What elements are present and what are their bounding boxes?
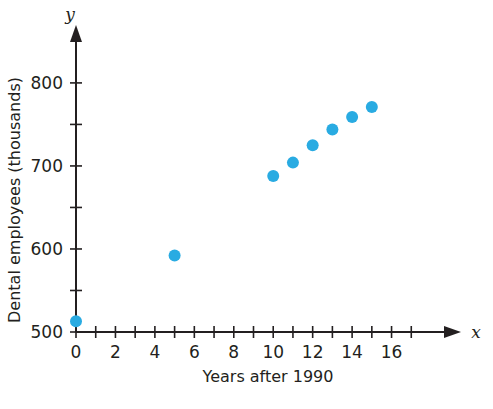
x-axis-tick-labels: 0246810121416 — [71, 342, 403, 362]
data-point — [267, 170, 279, 182]
x-tick-label: 12 — [302, 342, 324, 362]
data-point — [169, 250, 181, 262]
data-point-series — [70, 101, 378, 327]
x-tick-label: 10 — [262, 342, 284, 362]
x-tick-label: 16 — [381, 342, 403, 362]
y-tick-label: 600 — [31, 239, 63, 259]
x-tick-label: 4 — [149, 342, 160, 362]
scatter-chart: 500600700800 0246810121416 y x Years aft… — [0, 0, 493, 409]
y-axis-variable-label: y — [64, 4, 75, 24]
x-axis — [76, 326, 461, 338]
data-point — [326, 123, 338, 135]
y-axis-arrowhead — [70, 25, 82, 42]
data-point — [307, 139, 319, 151]
y-axis-title: Dental employees (thousands) — [5, 77, 24, 323]
y-tick-label: 800 — [31, 73, 63, 93]
x-tick-label: 6 — [189, 342, 200, 362]
y-tick-label: 700 — [31, 156, 63, 176]
x-tick-label: 0 — [71, 342, 82, 362]
x-axis-title: Years after 1990 — [202, 367, 334, 386]
x-tick-label: 14 — [341, 342, 363, 362]
data-point — [366, 101, 378, 113]
y-tick-label: 500 — [31, 322, 63, 342]
y-axis-tick-labels: 500600700800 — [31, 73, 63, 342]
data-point — [287, 157, 299, 169]
data-point — [346, 111, 358, 123]
data-point — [70, 315, 82, 327]
y-axis — [70, 25, 82, 332]
chart-canvas: 500600700800 0246810121416 y x Years aft… — [0, 0, 493, 409]
x-tick-label: 8 — [228, 342, 239, 362]
x-tick-label: 2 — [110, 342, 121, 362]
x-axis-arrowhead — [444, 326, 461, 338]
x-axis-variable-label: x — [471, 322, 481, 342]
